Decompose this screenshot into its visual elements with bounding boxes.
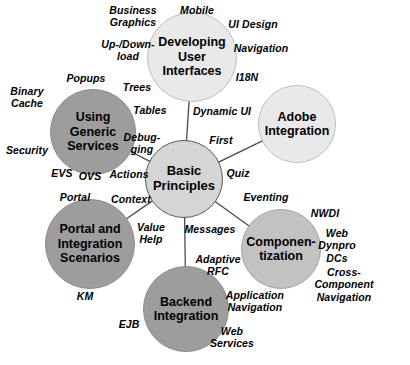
kw-mobile: Mobile xyxy=(180,4,214,16)
kw-ejb: EJB xyxy=(119,318,140,330)
kw-binary-cache: Binary Cache xyxy=(10,85,43,110)
node-label-using-generic-services: Using Generic Services xyxy=(63,110,122,153)
kw-security: Security xyxy=(6,144,48,156)
kw-eventing: Eventing xyxy=(243,191,288,203)
kw-up-download: Up-/Down- load xyxy=(101,38,154,63)
node-componentization[interactable]: Componen- tization xyxy=(241,209,321,289)
kw-first: First xyxy=(209,134,232,146)
node-developing-user-interfaces[interactable]: Developing User Interfaces xyxy=(147,12,237,102)
kw-quiz: Quiz xyxy=(226,167,249,179)
kw-navigation-top: Navigation xyxy=(234,42,289,54)
kw-tables: Tables xyxy=(133,104,166,116)
kw-evs: EVS xyxy=(51,167,72,179)
kw-debugging: Debug- ging xyxy=(124,131,161,156)
kw-application-navigation: Application Navigation xyxy=(226,289,284,314)
kw-actions: Actions xyxy=(109,168,148,180)
kw-adaptive-rfc: Adaptive RFC xyxy=(195,253,240,278)
node-adobe-integration[interactable]: Adobe Integration xyxy=(258,85,336,163)
node-label-adobe-integration: Adobe Integration xyxy=(261,110,334,139)
node-label-basic-principles: Basic Principles xyxy=(149,164,219,194)
kw-dynamic-ui: Dynamic UI xyxy=(193,105,251,117)
kw-value-help: Value Help xyxy=(137,221,165,246)
kw-business-graphics: Business Graphics xyxy=(109,4,157,29)
kw-nwdi: NWDI xyxy=(311,207,339,219)
node-label-backend-integration: Backend Integration xyxy=(150,295,223,324)
kw-i18n: I18N xyxy=(236,71,259,83)
kw-messages: Messages xyxy=(185,223,236,235)
kw-km: KM xyxy=(77,290,94,302)
kw-web-dynpro-dcs: Web Dynpro DCs xyxy=(318,227,355,264)
edge-basic-principles-to-developing-user-interfaces xyxy=(186,101,189,141)
kw-cross-component-nav: Cross-Component Navigation xyxy=(311,266,377,303)
kw-context: Context xyxy=(111,193,151,205)
kw-popups: Popups xyxy=(66,72,105,84)
node-label-portal-and-integration-scenarios: Portal and Integration Scenarios xyxy=(54,222,127,265)
kw-web-services: Web Services xyxy=(210,325,254,350)
kw-ovs: OVS xyxy=(79,170,101,182)
kw-trees: Trees xyxy=(123,81,151,93)
kw-portal: Portal xyxy=(60,191,90,203)
node-portal-and-integration-scenarios[interactable]: Portal and Integration Scenarios xyxy=(45,199,135,289)
mind-map-diagram: Developing User InterfacesAdobe Integrat… xyxy=(0,0,410,365)
kw-ui-design: UI Design xyxy=(228,18,277,30)
node-label-componentization: Componen- tization xyxy=(242,235,319,264)
node-label-developing-user-interfaces: Developing User Interfaces xyxy=(154,35,229,78)
